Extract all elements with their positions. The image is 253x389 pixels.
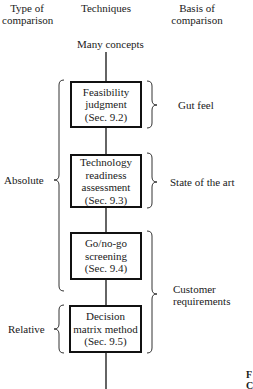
box-text: (Sec. 9.3)	[85, 194, 127, 207]
caption-fragment-line1: F	[246, 369, 253, 380]
box-text: judgment	[85, 98, 127, 111]
label-relative: Relative	[8, 323, 45, 335]
relative-brace	[54, 305, 64, 353]
label-customer-line1: Customer	[173, 283, 230, 295]
box-decision-matrix-method: Decision matrix method (Sec. 9.5)	[69, 305, 142, 353]
label-absolute: Absolute	[4, 174, 44, 186]
gut-feel-brace	[147, 81, 157, 128]
customer-requirements-brace	[147, 231, 157, 353]
box-technology-readiness-assessment: Technology readiness assessment (Sec. 9.…	[70, 154, 142, 208]
box-feasibility-judgment: Feasibility judgment (Sec. 9.2)	[70, 81, 142, 128]
caption-fragment: F C	[246, 369, 253, 389]
box-text: Feasibility	[83, 86, 129, 99]
box-text: (Sec. 9.2)	[85, 111, 127, 124]
box-text: matrix method	[73, 323, 137, 336]
label-customer-line2: requirements	[173, 295, 230, 307]
box-text: Decision	[86, 310, 125, 323]
box-text: Go/no-go	[85, 237, 127, 250]
box-text: screening	[85, 250, 127, 263]
box-text: readiness	[86, 169, 127, 182]
box-text: Technology	[80, 156, 132, 169]
box-text: (Sec. 9.4)	[85, 262, 127, 275]
label-gut-feel: Gut feel	[178, 99, 214, 111]
box-text: (Sec. 9.5)	[84, 335, 126, 348]
caption-fragment-line2: C	[246, 380, 253, 389]
label-state-of-the-art: State of the art	[170, 176, 234, 188]
label-customer-requirements: Customer requirements	[173, 283, 230, 307]
state-of-art-brace	[147, 153, 157, 208]
box-text: assessment	[82, 181, 131, 194]
absolute-brace	[54, 80, 64, 291]
box-go-no-go-screening: Go/no-go screening (Sec. 9.4)	[70, 232, 142, 280]
